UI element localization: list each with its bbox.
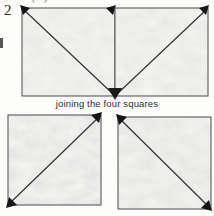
square-top-left: [20, 5, 116, 96]
square-bottom-left: [6, 112, 102, 208]
square-top-right: [115, 5, 209, 96]
figure-caption: joining the four squares: [0, 99, 214, 109]
square-bottom-right: [116, 114, 212, 211]
